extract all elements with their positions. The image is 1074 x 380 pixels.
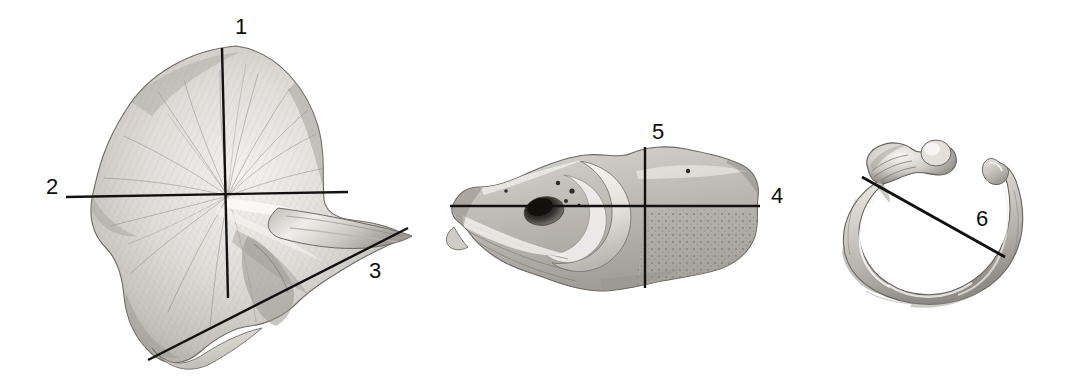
measurement-label-6: 6 bbox=[976, 208, 988, 230]
measurement-label-3: 3 bbox=[369, 260, 381, 282]
figure-rib bbox=[830, 125, 1050, 310]
illustration-plate: 1 2 3 5 4 6 Shaded line drawing of a sca… bbox=[0, 0, 1074, 380]
measurement-label-2: 2 bbox=[46, 176, 58, 198]
measurement-label-1: 1 bbox=[235, 16, 247, 38]
figure-bone-fragment bbox=[440, 135, 770, 305]
figure-scapula bbox=[40, 30, 430, 375]
measurement-label-5: 5 bbox=[652, 121, 664, 143]
measurement-label-4: 4 bbox=[771, 185, 783, 207]
